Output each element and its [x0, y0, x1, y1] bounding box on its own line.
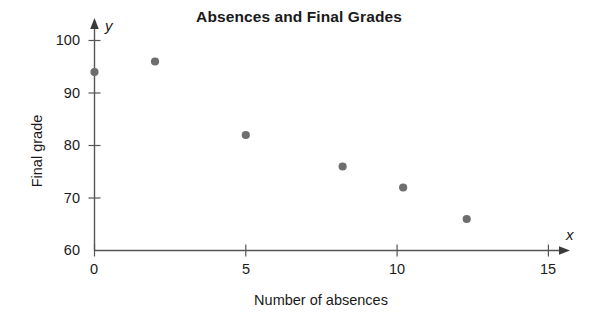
x-axis-arrowhead	[559, 246, 570, 255]
x-axis	[95, 245, 571, 257]
data-point	[463, 215, 471, 223]
data-point-group	[90, 57, 470, 223]
data-point	[339, 162, 347, 170]
data-point	[90, 68, 98, 76]
data-point	[151, 57, 159, 65]
data-point	[242, 131, 250, 139]
scatter-plot-figure: Absences and Final Grades Final grade Nu…	[0, 0, 598, 325]
y-axis	[89, 18, 101, 251]
data-point	[399, 183, 407, 191]
plot-area	[0, 0, 598, 325]
y-axis-arrowhead	[90, 18, 99, 29]
